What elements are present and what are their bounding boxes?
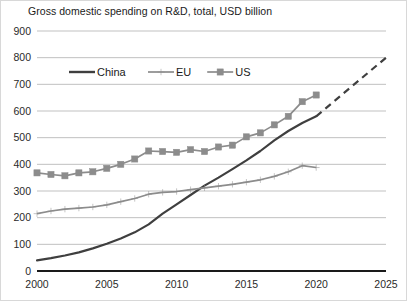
legend-label: EU xyxy=(176,66,191,78)
data-point-marker xyxy=(201,148,207,154)
x-axis-tick-label: 2000 xyxy=(25,278,49,290)
data-point-marker xyxy=(89,204,96,210)
data-point-marker xyxy=(145,191,152,197)
data-point-marker xyxy=(229,181,236,187)
data-point-marker xyxy=(217,69,223,75)
data-point-marker xyxy=(173,188,180,194)
legend-item-eu[interactable]: EU xyxy=(148,66,191,78)
data-series xyxy=(34,58,386,261)
y-axis-tick-label: 0 xyxy=(25,265,31,277)
data-point-marker xyxy=(34,210,41,216)
x-axis-tick-labels: 200020052010201520202025 xyxy=(25,278,398,290)
data-point-marker xyxy=(132,156,138,162)
legend-label: US xyxy=(235,66,250,78)
data-point-marker xyxy=(271,173,278,179)
data-point-marker xyxy=(34,170,40,176)
x-axis-tick-label: 2020 xyxy=(305,278,329,290)
data-point-marker xyxy=(187,147,193,153)
data-point-marker xyxy=(187,186,194,192)
data-point-marker xyxy=(131,195,138,201)
data-point-marker xyxy=(76,170,82,176)
data-point-marker xyxy=(313,164,320,170)
data-point-marker xyxy=(159,189,166,195)
x-axis-tick-label: 2005 xyxy=(95,278,119,290)
data-point-marker xyxy=(174,149,180,155)
legend-item-us[interactable]: US xyxy=(207,66,250,78)
gridlines xyxy=(37,31,386,244)
data-point-marker xyxy=(257,130,263,136)
data-point-marker xyxy=(104,165,110,171)
data-point-marker xyxy=(117,198,124,204)
x-axis-tick-label: 2010 xyxy=(165,278,189,290)
data-point-marker xyxy=(118,161,124,167)
y-axis-tick-label: 300 xyxy=(13,185,31,197)
data-point-marker xyxy=(215,183,222,189)
y-axis-tick-label: 200 xyxy=(13,211,31,223)
data-point-marker xyxy=(62,173,68,179)
data-point-marker xyxy=(215,144,221,150)
data-point-marker xyxy=(313,92,319,98)
chart-plot: 0100200300400500600700800900 20002005201… xyxy=(1,1,407,301)
y-axis-tick-label: 900 xyxy=(13,25,31,37)
series-line-us xyxy=(37,95,316,176)
data-point-marker xyxy=(229,142,235,148)
data-point-marker xyxy=(243,179,250,185)
data-point-marker xyxy=(48,171,54,177)
data-point-marker xyxy=(299,99,305,105)
x-axis-tick-label: 2025 xyxy=(374,278,398,290)
data-point-marker xyxy=(146,148,152,154)
y-axis-tick-label: 100 xyxy=(13,238,31,250)
y-axis-tick-label: 500 xyxy=(13,131,31,143)
data-point-marker xyxy=(285,169,292,175)
y-axis-tick-label: 800 xyxy=(13,51,31,63)
data-point-marker xyxy=(243,134,249,140)
data-point-marker xyxy=(285,113,291,119)
data-point-marker xyxy=(158,69,165,75)
data-point-marker xyxy=(75,205,82,211)
data-point-marker xyxy=(160,148,166,154)
data-point-marker xyxy=(257,177,264,183)
data-point-marker xyxy=(90,169,96,175)
data-point-marker xyxy=(299,162,306,168)
series-markers-us xyxy=(34,92,319,179)
chart-container: Gross domestic spending on R&D, total, U… xyxy=(0,0,407,301)
data-point-marker xyxy=(103,202,110,208)
y-axis-tick-labels: 0100200300400500600700800900 xyxy=(13,25,31,277)
data-point-marker xyxy=(271,122,277,128)
y-axis-tick-label: 600 xyxy=(13,105,31,117)
chart-legend: ChinaEUUS xyxy=(69,66,250,78)
data-point-marker xyxy=(48,208,55,214)
y-axis-tick-label: 700 xyxy=(13,78,31,90)
x-axis-tick-label: 2015 xyxy=(235,278,259,290)
legend-label: China xyxy=(97,66,127,78)
y-axis-tick-label: 400 xyxy=(13,158,31,170)
data-point-marker xyxy=(62,206,69,212)
series-line-china-projection xyxy=(316,58,386,117)
legend-item-china[interactable]: China xyxy=(69,66,127,78)
